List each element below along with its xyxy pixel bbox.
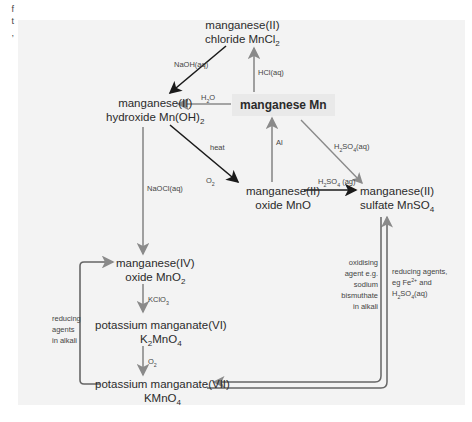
label-text: NaOH(aq): [174, 60, 208, 69]
label-text: Al: [276, 138, 283, 147]
node-manganese-ii-oxide: manganese(II) oxide MnO: [246, 184, 320, 212]
label-oxidising-agent: oxidising agent e.g. sodium bismuthate i…: [334, 257, 378, 312]
node-line: oxide MnO2: [116, 270, 195, 284]
subscript: 2: [275, 39, 279, 48]
label-text: (aq): [356, 142, 369, 151]
label-naocl: NaOCl(aq): [147, 184, 183, 194]
subscript: 2: [200, 117, 204, 126]
label-text: reducing agents in alkali: [52, 314, 81, 345]
node-line: manganese(IV): [116, 256, 195, 270]
formula-text: oxide MnO: [125, 271, 181, 283]
node-line: potassium manganate(VII): [95, 377, 230, 391]
subscript: 4: [430, 205, 434, 214]
label-text: heat: [210, 143, 225, 152]
node-potassium-manganate-vi: potassium manganate(VI) K2MnO4: [95, 318, 227, 346]
label-h2o: H2O: [201, 93, 215, 103]
label-text: (ag): [340, 177, 355, 186]
label-text: NaOCl(aq): [147, 184, 183, 193]
node-manganese-ii-chloride: manganese(II) chloride MnCl2: [205, 18, 280, 46]
label-o2-lower: O2: [148, 357, 157, 367]
subscript: 2: [212, 181, 215, 187]
label-reducing-agents-alkali: reducing agents in alkali: [52, 313, 80, 346]
subscript: 4: [177, 339, 181, 348]
label-text: KClO: [148, 295, 166, 304]
node-line: manganese(II): [106, 96, 204, 110]
node-line: potassium manganate(VI): [95, 318, 227, 332]
node-potassium-manganate-vii: potassium manganate(VII) KMnO4: [95, 377, 230, 405]
subscript: 2: [154, 362, 157, 368]
label-heat: heat: [210, 143, 225, 153]
formula-text: hydroxide Mn(OH): [106, 111, 200, 123]
node-manganese-iv-oxide: manganese(IV) oxide MnO2: [116, 256, 195, 284]
node-line: sulfate MnSO4: [360, 198, 434, 212]
formula-text: K: [140, 333, 148, 345]
arrow-mnoh2-to-mno: [170, 125, 238, 182]
label-text: SO: [326, 177, 337, 186]
label-reducing-agents-acid: reducing agents, eg Fe2+ and H2SO4(aq): [392, 266, 452, 299]
formula-text: sulfate MnSO: [360, 199, 430, 211]
label-hcl: HCl(aq): [258, 68, 284, 78]
subscript: 2: [181, 277, 185, 286]
subscript: 3: [166, 300, 169, 306]
label-h2so4-horizontal: H2SO4 (ag): [318, 177, 356, 187]
node-line: manganese(II): [246, 184, 320, 198]
node-line: manganese Mn: [240, 98, 327, 112]
label-text: oxidising agent e.g. sodium bismuthate i…: [341, 258, 378, 311]
formula-text: KMnO: [144, 392, 177, 404]
node-manganese-ii-sulfate: manganese(II) sulfate MnSO4: [360, 184, 434, 212]
node-line: manganese(II): [360, 184, 434, 198]
node-line: manganese(II): [205, 18, 280, 32]
node-line: oxide MnO: [246, 198, 320, 212]
node-line: chloride MnCl2: [205, 32, 280, 46]
node-line: KMnO4: [95, 391, 230, 405]
label-text: (aq): [414, 289, 427, 298]
label-text: SO: [342, 142, 353, 151]
node-line: hydroxide Mn(OH)2: [106, 110, 204, 124]
node-manganese-ii-hydroxide: manganese(II) hydroxide Mn(OH)2: [106, 96, 204, 124]
node-manganese-mn: manganese Mn: [232, 94, 335, 116]
label-text: HCl(aq): [258, 68, 284, 77]
label-text: SO: [400, 289, 411, 298]
label-al: Al: [276, 138, 283, 148]
subscript: 4: [176, 398, 180, 407]
label-naoh: NaOH(aq): [174, 60, 208, 70]
label-kclo3: KClO3: [148, 295, 169, 305]
label-h2so4-diagonal: H2SO4(aq): [334, 142, 369, 152]
label-text: O: [209, 93, 215, 102]
formula-text: chloride MnCl: [205, 33, 275, 45]
formula-text: MnO: [152, 333, 177, 345]
node-line: K2MnO4: [95, 332, 227, 346]
label-o2: O2: [206, 176, 215, 186]
